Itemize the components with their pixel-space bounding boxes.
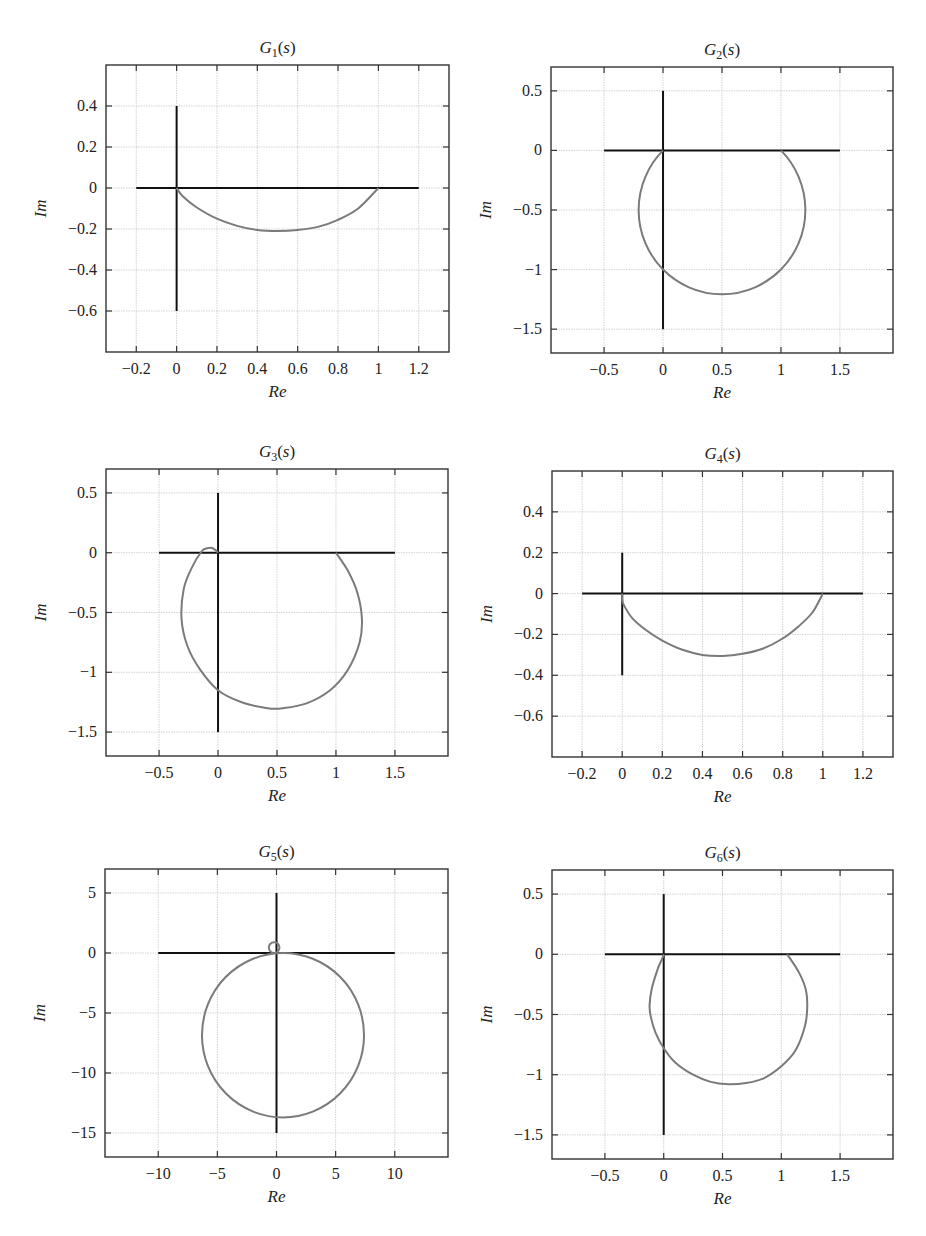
nyquist-curve: [650, 954, 808, 1084]
x-tick-labels: −0.500.511.5: [590, 361, 850, 378]
y-tick-label: −0.2: [514, 625, 543, 642]
x-tick-label: −0.2: [122, 360, 151, 377]
plot-title: G6(s): [704, 843, 740, 865]
x-tick-label: −0.2: [568, 765, 597, 782]
plot-title: G3(s): [259, 442, 295, 464]
y-tick-label: −0.6: [514, 707, 543, 724]
x-tick-label: 0: [273, 1165, 281, 1182]
x-tick-label: 5: [332, 1165, 340, 1182]
y-tick-label: 0.2: [523, 544, 543, 561]
y-axis-label: Im: [30, 1004, 49, 1023]
x-tick-label: 10: [387, 1165, 403, 1182]
y-axis-label: Im: [31, 200, 50, 219]
y-tick-label: −5: [79, 1004, 96, 1021]
x-tick-label: 1: [777, 1167, 785, 1184]
grid-lines: [106, 469, 448, 756]
x-tick-label: 1: [374, 360, 382, 377]
x-tick-labels: −0.500.511.5: [590, 1167, 850, 1184]
x-tick-label: 0.5: [712, 361, 732, 378]
nyquist-curves: [202, 942, 364, 1117]
x-tick-label: 0.4: [692, 765, 712, 782]
y-tick-label: 0.5: [522, 82, 542, 99]
x-tick-labels: −0.200.20.40.60.811.2: [568, 765, 873, 782]
y-tick-label: 0.5: [77, 484, 97, 501]
plot-g4: −0.200.20.40.60.811.20.40.20−0.2−0.4−0.6…: [477, 444, 893, 806]
x-tick-label: 0.2: [652, 765, 672, 782]
plot-frame: [552, 471, 893, 757]
x-axis-label: Re: [712, 383, 731, 402]
y-tick-label: −0.5: [513, 201, 542, 218]
x-tick-label: 0: [214, 764, 222, 781]
y-tick-label: 0.4: [77, 97, 97, 114]
y-tick-label: 0: [535, 585, 543, 602]
nyquist-curves: [177, 188, 379, 231]
y-tick-label: −0.2: [68, 220, 97, 237]
x-tick-label: 1: [332, 764, 340, 781]
y-tick-labels: 0.40.20−0.2−0.4−0.6: [68, 97, 97, 319]
nyquist-curves: [181, 548, 362, 709]
plot-frame: [106, 65, 449, 352]
x-tick-label: 1: [777, 361, 785, 378]
x-tick-label: 1.2: [853, 765, 873, 782]
x-tick-label: 0: [173, 360, 181, 377]
plot-g3: −0.500.511.50.50−0.5−1−1.5ReImG3(s): [31, 442, 448, 805]
grid-lines: [552, 471, 893, 757]
y-axis-label: Im: [477, 605, 496, 624]
plot-title: G2(s): [704, 40, 740, 62]
y-tick-labels: 0.40.20−0.2−0.4−0.6: [514, 503, 543, 724]
y-tick-label: 0: [534, 141, 542, 158]
y-tick-label: 0: [89, 179, 97, 196]
x-tick-label: −0.5: [145, 764, 174, 781]
x-axis-label: Re: [267, 786, 286, 805]
x-axis-label: Re: [268, 382, 287, 401]
nyquist-curves: [622, 594, 823, 656]
x-tick-label: 0: [618, 765, 626, 782]
nyquist-figure: −0.200.20.40.60.811.20.40.20−0.2−0.4−0.6…: [0, 0, 926, 1236]
y-tick-label: −0.5: [514, 1006, 543, 1023]
x-tick-label: −0.5: [590, 361, 619, 378]
y-tick-label: −1.5: [513, 320, 542, 337]
x-tick-label: −5: [209, 1165, 226, 1182]
y-tick-label: 0: [535, 945, 543, 962]
y-tick-label: 0.4: [523, 503, 543, 520]
nyquist-curves: [650, 954, 808, 1084]
grid-lines: [551, 67, 893, 353]
y-tick-label: −0.6: [68, 302, 97, 319]
y-tick-label: 0.2: [77, 138, 97, 155]
nyquist-curve: [269, 942, 280, 953]
nyquist-curve: [202, 953, 364, 1117]
y-tick-labels: 0.50−0.5−1−1.5: [514, 885, 543, 1143]
y-axis-label: Im: [477, 1006, 496, 1025]
nyquist-curve: [622, 594, 823, 656]
y-tick-label: −0.4: [68, 261, 97, 278]
y-axis-label: Im: [476, 201, 495, 220]
plot-title: G4(s): [704, 444, 740, 466]
plot-g1: −0.200.20.40.60.811.20.40.20−0.2−0.4−0.6…: [31, 38, 449, 401]
x-tick-label: 0.4: [247, 360, 267, 377]
nyquist-curve: [181, 548, 362, 709]
x-tick-labels: −10−50510: [146, 1165, 403, 1182]
y-tick-label: −1: [80, 663, 97, 680]
x-tick-label: −0.5: [590, 1167, 619, 1184]
y-tick-label: −10: [71, 1064, 96, 1081]
plot-g2: −0.500.511.50.50−0.5−1−1.5ReImG2(s): [476, 40, 893, 402]
plot-g6: −0.500.511.50.50−0.5−1−1.5ReImG6(s): [477, 843, 893, 1208]
axis-ticks: [106, 65, 449, 352]
x-tick-label: 0.5: [267, 764, 287, 781]
y-tick-labels: 50−5−10−15: [71, 884, 96, 1141]
x-tick-label: 1: [819, 765, 827, 782]
y-tick-label: −1.5: [514, 1126, 543, 1143]
y-tick-label: 0: [89, 544, 97, 561]
y-tick-label: −0.5: [68, 604, 97, 621]
y-tick-label: 0: [88, 944, 96, 961]
y-tick-label: −0.4: [514, 666, 543, 683]
grid-lines: [106, 65, 449, 352]
x-tick-label: 0.6: [288, 360, 308, 377]
x-tick-label: 0.2: [207, 360, 227, 377]
nyquist-curve: [177, 188, 379, 231]
x-tick-label: 1.2: [409, 360, 429, 377]
x-axis-label: Re: [713, 1189, 732, 1208]
x-tick-label: −10: [146, 1165, 171, 1182]
y-tick-label: −1: [525, 261, 542, 278]
plot-title: G1(s): [259, 38, 295, 60]
